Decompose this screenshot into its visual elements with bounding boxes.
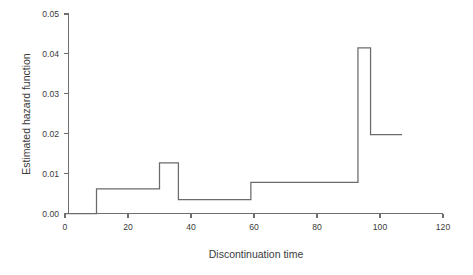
x-tick-label: 80	[312, 222, 322, 232]
x-axis-title: Discontinuation time	[209, 248, 304, 260]
x-tick-marks	[65, 214, 443, 219]
y-tick-label: 0.04	[42, 49, 59, 59]
y-tick-label: 0.02	[42, 129, 59, 139]
x-tick-label: 0	[63, 222, 68, 232]
x-tick-label: 20	[123, 222, 133, 232]
x-tick-label: 100	[373, 222, 388, 232]
y-tick-label: 0.03	[42, 89, 59, 99]
y-tick-label: 0.05	[42, 9, 59, 19]
x-tick-label: 40	[186, 222, 196, 232]
x-tick-labels: 020406080100120	[63, 222, 451, 232]
hazard-step-line	[65, 48, 402, 214]
y-tick-labels: 0.000.010.020.030.040.05	[42, 9, 59, 219]
x-tick-label: 120	[436, 222, 451, 232]
plot-area: 0.000.010.020.030.040.05 020406080100120	[42, 9, 450, 231]
y-tick-marks	[64, 14, 69, 214]
y-tick-label: 0.00	[42, 209, 59, 219]
hazard-function-chart: 0.000.010.020.030.040.05 020406080100120…	[0, 0, 473, 275]
y-axis-title: Estimated hazard function	[20, 53, 32, 175]
y-tick-label: 0.01	[42, 169, 59, 179]
x-tick-label: 60	[249, 222, 259, 232]
